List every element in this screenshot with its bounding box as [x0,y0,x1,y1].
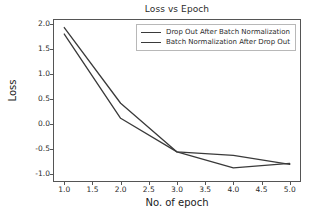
y-tick-text: -1.0 [24,169,50,178]
y-axis-label: Loss [7,61,18,121]
chart-legend: Drop Out After Batch NormalizationBatch … [136,24,296,51]
y-tick-label: 1.0 [21,69,50,79]
legend-swatch-icon [141,32,161,33]
legend-item-2: Batch Normalization After Drop Out [141,37,291,47]
x-axis-label: No. of epoch [53,197,301,208]
x-tick-mark [149,182,150,185]
x-tick-mark [262,182,263,185]
x-tick-label: 1.0 [49,185,79,194]
y-tick-text: 2.0 [24,19,50,28]
x-tick-label: 2.5 [134,185,164,194]
chart-title: Loss vs Epoch [53,4,301,14]
y-tick-text: -0.5 [24,144,50,153]
x-tick-label: 3.0 [162,185,192,194]
y-tick-label: -0.5 [21,144,50,154]
legend-label: Batch Normalization After Drop Out [166,37,290,47]
y-tick-label: -1.0 [21,169,50,179]
y-tick-text: 0.5 [24,94,50,103]
x-tick-label: 2.0 [106,185,136,194]
y-tick-text: 1.5 [24,44,50,53]
x-tick-label: 5.0 [275,185,305,194]
x-tick-label: 4.5 [247,185,277,194]
series-line-2 [64,34,289,168]
x-tick-mark [64,182,65,185]
y-tick-label: 0.0 [21,119,50,129]
x-tick-mark [92,182,93,185]
x-tick-mark [233,182,234,185]
y-tick-label: 0.5 [21,94,50,104]
legend-swatch-icon [141,42,161,43]
x-tick-mark [121,182,122,185]
y-tick-text: 1.0 [24,69,50,78]
chart-figure: Loss vs Epoch 2.01.51.00.50.0-0.5-1.0 1.… [0,0,318,223]
x-tick-label: 1.5 [77,185,107,194]
x-tick-mark [290,182,291,185]
legend-label: Drop Out After Batch Normalization [166,27,290,37]
y-tick-text: 0.0 [24,119,50,128]
legend-item-1: Drop Out After Batch Normalization [141,27,291,37]
y-tick-label: 1.5 [21,44,50,54]
x-tick-mark [205,182,206,185]
y-tick-label: 2.0 [21,19,50,29]
x-tick-mark [177,182,178,185]
x-tick-label: 3.5 [190,185,220,194]
x-tick-label: 4.0 [218,185,248,194]
